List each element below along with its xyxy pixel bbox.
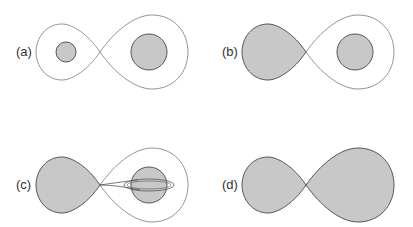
roche-lobe-diagram-d — [206, 113, 413, 227]
panel-c: (c) — [0, 113, 206, 226]
accreting-star — [131, 167, 167, 203]
small-star — [56, 42, 76, 62]
filled-roche-lobe — [242, 24, 306, 80]
panel-d: (d) — [206, 113, 412, 226]
panel-label: (b) — [222, 44, 238, 59]
panel-label: (c) — [16, 177, 31, 192]
filled-roche-lobe — [242, 157, 306, 213]
panel-label: (a) — [16, 44, 32, 59]
large-star — [131, 34, 167, 70]
roche-lobe-diagram-c — [0, 113, 206, 227]
large-star — [337, 34, 373, 70]
panel-label: (d) — [222, 177, 238, 192]
panel-b: (b) — [206, 0, 412, 113]
panel-a: (a) — [0, 0, 206, 113]
filled-roche-lobe — [36, 157, 100, 213]
filled-roche-lobe — [306, 148, 394, 222]
